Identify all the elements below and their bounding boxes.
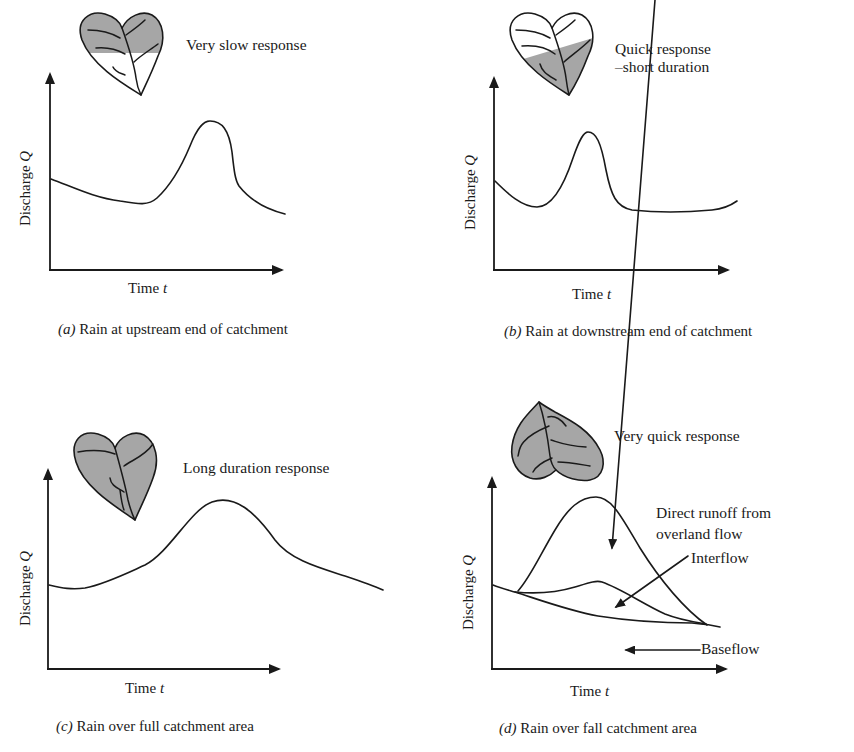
- x-axis-label-a: Time t: [128, 280, 167, 297]
- interflow-arrow: [616, 556, 688, 607]
- direct-runoff-label: Direct runoff fromoverland flow: [656, 502, 771, 544]
- x-axis-label-b: Time t: [572, 286, 611, 303]
- y-axis-label-b: Discharge Q: [462, 155, 479, 230]
- response-label-d: Very quick response: [614, 427, 740, 445]
- response-label-b: Quick response–short duration: [615, 40, 711, 76]
- response-label-c: Long duration response: [183, 459, 329, 477]
- leaf-catchment-icon: [500, 13, 610, 100]
- y-axis-label-a: Discharge Q: [17, 151, 34, 226]
- x-axis-label-d: Time t: [570, 683, 609, 700]
- leaf-catchment-icon: [512, 402, 603, 481]
- hydrograph-curve: [49, 500, 383, 590]
- direct-runoff-arrow: [612, 0, 655, 548]
- caption-b: (b) Rain at downstream end of catchment: [504, 322, 752, 340]
- leaf-catchment-icon: [70, 5, 180, 95]
- y-axis-label-d: Discharge Q: [460, 555, 477, 630]
- caption-d: (d) Rain over fall catchment area: [499, 719, 697, 737]
- leaf-catchment-icon: [74, 433, 156, 520]
- y-axis-label-c: Discharge Q: [17, 551, 34, 626]
- baseflow-label: Baseflow: [701, 640, 760, 658]
- hydrograph-curve: [51, 121, 285, 214]
- interflow-label: Interflow: [691, 549, 749, 567]
- x-axis-label-c: Time t: [125, 680, 164, 697]
- response-label-a: Very slow response: [186, 36, 307, 54]
- caption-a: (a) Rain at upstream end of catchment: [58, 320, 288, 338]
- caption-c: (c) Rain over full catchment area: [56, 717, 254, 735]
- hydrograph-curve: [495, 132, 737, 212]
